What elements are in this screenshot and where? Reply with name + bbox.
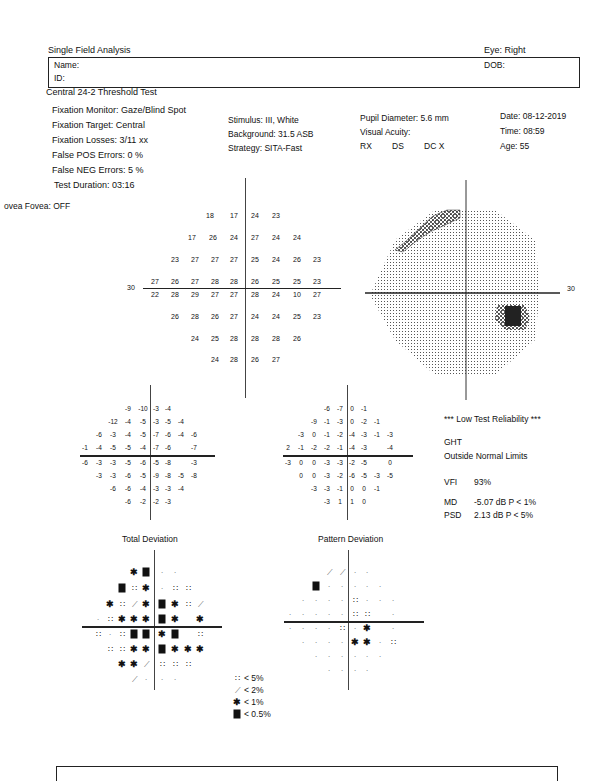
legend-label: < 1% <box>244 697 264 708</box>
psd-label: PSD <box>444 510 461 521</box>
p5-symbol-icon: ∷ <box>108 615 113 624</box>
pattern-deviation-value: 1 <box>350 498 354 505</box>
threshold-axis-label: 30 <box>127 284 135 291</box>
threshold-value: 28 <box>171 291 179 299</box>
p05-symbol-icon <box>143 630 150 639</box>
threshold-value: 23 <box>313 256 321 264</box>
legend-label: < 5% <box>244 673 264 684</box>
threshold-value: 28 <box>251 335 259 343</box>
normal-dot-icon: · <box>109 630 112 639</box>
normal-dot-icon: · <box>328 638 331 647</box>
threshold-value: 26 <box>293 335 301 343</box>
grayscale-plot <box>365 180 565 400</box>
pattern-deviation-value: -1 <box>337 444 343 451</box>
p05-symbol-icon <box>159 645 166 654</box>
background: Background: 31.5 ASB <box>228 129 314 140</box>
normal-dot-icon: · <box>328 582 331 591</box>
p2-symbol-icon: ⟋ <box>132 600 137 609</box>
threshold-value: 23 <box>313 278 321 286</box>
pattern-deviation-value: -1 <box>374 431 380 438</box>
normal-dot-icon: · <box>366 596 369 605</box>
p1-symbol-icon: ✱ <box>106 600 114 609</box>
total-deviation-value: -3 <box>110 472 116 479</box>
normal-dot-icon: · <box>392 596 395 605</box>
pattern-deviation-value: -2 <box>361 418 367 425</box>
total-deviation-value: -6 <box>110 485 116 492</box>
normal-dot-icon: · <box>366 652 369 661</box>
p1-symbol-icon: ✱ <box>142 645 150 654</box>
total-deviation-value: -3 <box>165 498 171 505</box>
pattern-deviation-value: -1 <box>374 418 380 425</box>
p5-symbol-icon: ∷ <box>120 630 125 639</box>
threshold-value: 26 <box>171 278 179 286</box>
p5-symbol-icon: ∷ <box>186 584 191 593</box>
rx-label: RX <box>360 141 372 152</box>
legend-item: ∷< 5% <box>232 673 292 684</box>
total-deviation-value: -7 <box>153 431 159 438</box>
pattern-deviation-value: -7 <box>337 405 343 412</box>
p2-symbol-icon: ⟋ <box>144 660 149 669</box>
pattern-deviation-value: -4 <box>349 444 355 451</box>
p1-symbol-icon: ✱ <box>184 645 192 654</box>
p1-symbol-icon: ✱ <box>351 638 359 647</box>
pattern-deviation-value: 0 <box>362 498 366 505</box>
total-deviation-value: -6 <box>125 498 131 505</box>
total-deviation-value: -1 <box>82 444 88 451</box>
threshold-value: 26 <box>211 313 219 321</box>
total-deviation-value: -6 <box>165 444 171 451</box>
p5-symbol-icon: ∷ <box>186 660 191 669</box>
pattern-deviation-value: -1 <box>337 485 343 492</box>
td-horizontal-axis <box>80 455 215 457</box>
threshold-value: 24 <box>293 234 301 242</box>
normal-dot-icon: · <box>379 596 382 605</box>
p5-symbol-icon: ∷ <box>108 645 113 654</box>
p05-symbol-icon <box>159 600 166 609</box>
threshold-value: 17 <box>188 234 196 242</box>
p5-symbol-icon: ∷ <box>160 660 165 669</box>
threshold-value: 24 <box>272 256 280 264</box>
total-deviation-value: -4 <box>125 431 131 438</box>
legend-item: ⟋< 2% <box>232 685 292 696</box>
pattern-deviation-value: -3 <box>387 431 393 438</box>
normal-dot-icon: · <box>392 610 395 619</box>
pattern-deviation-value: -3 <box>361 444 367 451</box>
fixation-target: Fixation Target: Central <box>52 119 145 131</box>
threshold-value: 27 <box>272 356 280 364</box>
td-vertical-axis <box>150 385 151 520</box>
normal-dot-icon: · <box>341 666 344 675</box>
ds-label: DS <box>392 141 404 152</box>
pattern-deviation-value: 2 <box>286 444 290 451</box>
total-deviation-value: -5 <box>178 472 184 479</box>
p5-symbol-icon: ∷ <box>365 610 370 619</box>
threshold-value: 22 <box>151 291 159 299</box>
pattern-deviation-value: -6 <box>349 472 355 479</box>
total-deviation-value: -5 <box>140 418 146 425</box>
threshold-value: 24 <box>272 291 280 299</box>
threshold-value: 27 <box>211 256 219 264</box>
p1-symbol-icon: ✱ <box>196 615 204 624</box>
total-deviation-value: -3 <box>191 459 197 466</box>
threshold-value: 23 <box>313 313 321 321</box>
vfi-label: VFI <box>444 477 457 488</box>
threshold-value: 26 <box>251 356 259 364</box>
total-deviation-value: -3 <box>153 485 159 492</box>
pattern-deviation-value: -1 <box>324 418 330 425</box>
threshold-value: 17 <box>230 212 238 220</box>
patient-info-box: Name: ID: DOB: <box>48 57 580 88</box>
test-time: Time: 08:59 <box>500 126 545 137</box>
p05-symbol-icon <box>313 582 320 591</box>
fixation-losses: Fixation Losses: 3/11 xx <box>52 134 148 146</box>
normal-dot-icon: · <box>289 624 292 633</box>
threshold-value: 25 <box>251 256 259 264</box>
normal-dot-icon: · <box>341 582 344 591</box>
total-deviation-value: -4 <box>96 444 102 451</box>
pattern-deviation-value: 0 <box>362 485 366 492</box>
pd-prob-horizontal-axis <box>284 621 424 623</box>
test-duration: Test Duration: 03:16 <box>54 179 135 191</box>
threshold-value: 26 <box>293 256 301 264</box>
legend-label: < 2% <box>244 685 264 696</box>
p05-symbol-icon <box>172 630 179 639</box>
normal-dot-icon: · <box>302 596 305 605</box>
normal-dot-icon: · <box>315 596 318 605</box>
pattern-deviation-value: -2 <box>337 431 343 438</box>
